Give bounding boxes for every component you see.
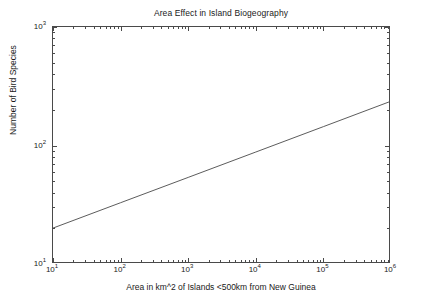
x-tick-minor-top [317, 27, 318, 29]
x-tick-major [188, 258, 189, 262]
x-tick-minor [388, 260, 389, 262]
x-tick-minor-top [94, 27, 95, 29]
x-tick-minor-top [344, 27, 345, 29]
x-tick-minor [85, 260, 86, 262]
x-tick-minor-top [118, 27, 119, 29]
x-tick-minor-top [249, 27, 250, 29]
y-tick-minor [53, 151, 55, 152]
x-tick-minor-top [276, 27, 277, 29]
x-tick-minor-top [168, 27, 169, 29]
x-tick-minor [381, 260, 382, 262]
x-tick-minor-top [106, 27, 107, 29]
x-tick-minor-top [209, 27, 210, 29]
x-axis-label: Area in km^2 of Islands <500km from New … [52, 282, 390, 292]
x-tick-minor [241, 260, 242, 262]
x-tick-minor [384, 260, 385, 262]
y-tick-minor-right [387, 74, 389, 75]
y-tick-minor [53, 110, 55, 111]
x-tick-minor-top [73, 27, 74, 29]
x-tick-minor [320, 260, 321, 262]
x-tick-major [121, 258, 122, 262]
x-tick-label: 102 [113, 265, 125, 274]
x-tick-minor [153, 260, 154, 262]
y-tick-minor [53, 157, 55, 158]
y-tick-major [53, 27, 57, 28]
x-tick-minor-top [229, 27, 230, 29]
y-tick-major-right [385, 27, 389, 28]
x-tick-minor [364, 260, 365, 262]
x-tick-minor-top [288, 27, 289, 29]
x-tick-major-top [188, 27, 189, 31]
x-tick-major [53, 258, 54, 262]
x-tick-minor-top [381, 27, 382, 29]
y-tick-minor [53, 193, 55, 194]
y-tick-minor-right [387, 38, 389, 39]
x-tick-minor [245, 260, 246, 262]
x-tick-minor [161, 260, 162, 262]
y-tick-minor-right [387, 228, 389, 229]
y-tick-minor [53, 181, 55, 182]
x-tick-major [323, 258, 324, 262]
x-tick-minor [371, 260, 372, 262]
x-tick-minor [100, 260, 101, 262]
x-tick-minor [106, 260, 107, 262]
x-tick-minor [376, 260, 377, 262]
x-tick-minor [185, 260, 186, 262]
x-tick-minor-top [245, 27, 246, 29]
y-tick-minor [53, 38, 55, 39]
x-tick-minor-top [220, 27, 221, 29]
x-tick-minor-top [141, 27, 142, 29]
x-tick-minor-top [110, 27, 111, 29]
x-tick-major-top [256, 27, 257, 31]
y-tick-minor [53, 74, 55, 75]
x-tick-minor-top [371, 27, 372, 29]
y-tick-minor [53, 45, 55, 46]
x-tick-label: 104 [249, 265, 261, 274]
x-tick-minor [114, 260, 115, 262]
x-tick-minor-top [253, 27, 254, 29]
y-tick-minor-right [387, 45, 389, 46]
x-tick-minor-top [185, 27, 186, 29]
x-tick-minor-top [308, 27, 309, 29]
x-tick-minor-top [161, 27, 162, 29]
y-tick-minor [53, 207, 55, 208]
x-tick-minor-top [114, 27, 115, 29]
x-tick-label: 105 [316, 265, 328, 274]
x-tick-minor [249, 260, 250, 262]
x-tick-minor-top [85, 27, 86, 29]
x-tick-minor [182, 260, 183, 262]
x-tick-minor [313, 260, 314, 262]
data-series-line [53, 27, 390, 263]
y-tick-minor [53, 228, 55, 229]
y-tick-label: 103 [34, 22, 46, 31]
x-tick-major [256, 258, 257, 262]
y-tick-minor-right [387, 172, 389, 173]
x-tick-label: 101 [46, 265, 58, 274]
y-tick-minor [53, 89, 55, 90]
x-tick-minor-top [153, 27, 154, 29]
x-tick-minor-top [376, 27, 377, 29]
y-tick-minor-right [387, 63, 389, 64]
x-tick-minor [229, 260, 230, 262]
x-tick-major-top [323, 27, 324, 31]
x-tick-minor-top [364, 27, 365, 29]
x-tick-minor-top [303, 27, 304, 29]
x-tick-minor [356, 260, 357, 262]
y-tick-minor-right [387, 110, 389, 111]
y-tick-label: 101 [34, 259, 46, 268]
x-tick-minor [253, 260, 254, 262]
x-tick-minor-top [182, 27, 183, 29]
x-tick-minor-top [241, 27, 242, 29]
y-tick-minor [53, 32, 55, 33]
plot-area [52, 26, 390, 263]
y-axis-label: Number of Bird Species [8, 25, 18, 155]
y-tick-minor-right [387, 164, 389, 165]
x-tick-minor [235, 260, 236, 262]
y-tick-minor-right [387, 181, 389, 182]
x-tick-minor [94, 260, 95, 262]
x-tick-minor [168, 260, 169, 262]
y-tick-minor [53, 63, 55, 64]
chart-title: Area Effect in Island Biogeography [52, 8, 390, 18]
y-tick-minor-right [387, 157, 389, 158]
x-tick-minor [141, 260, 142, 262]
